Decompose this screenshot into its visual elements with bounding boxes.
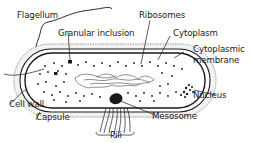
label-pili: Pili bbox=[110, 131, 122, 140]
label-capsule: Capsule bbox=[36, 113, 70, 122]
label-granular-inclusion: Granular inclusion bbox=[58, 29, 134, 38]
label-cytoplasmic-membrane-line1: Cytoplasmic bbox=[193, 45, 245, 54]
label-flagellum: Flagellum bbox=[17, 11, 58, 20]
label-cytoplasmic-membrane-line2: membrane bbox=[193, 56, 239, 65]
label-ribosomes: Ribosomes bbox=[139, 11, 185, 20]
label-cytoplasm: Cytoplasm bbox=[173, 29, 218, 38]
label-nucleus: Nucleus bbox=[193, 91, 227, 100]
bacterial-cell-diagram: Flagellum Granular inclusion Ribosomes C… bbox=[0, 0, 253, 143]
label-mesosome: Mesosome bbox=[152, 112, 197, 121]
label-cell-wall: Cell wall bbox=[9, 100, 44, 109]
